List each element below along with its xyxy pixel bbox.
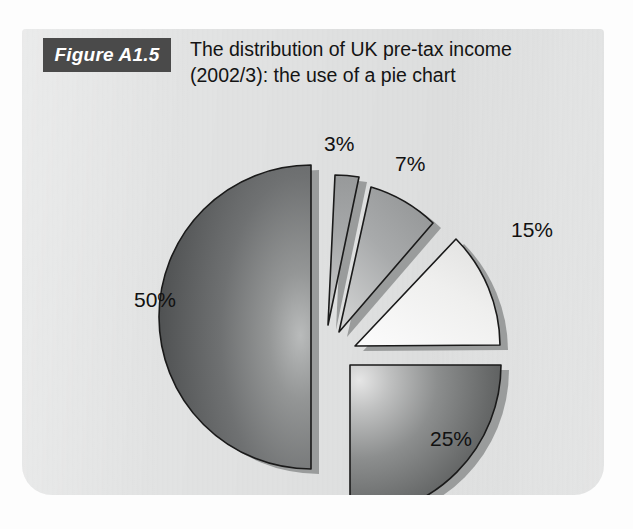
pie-label-15: 15% — [511, 218, 553, 241]
pie-chart: 50% 3% 7% 15% 25% — [22, 29, 604, 495]
figure-number-tag: Figure A1.5 — [43, 38, 171, 72]
pie-label-50: 50% — [134, 288, 176, 311]
pie-slice-50[interactable] — [159, 165, 311, 469]
pie-label-7: 7% — [395, 152, 425, 175]
figure-title-line-2: (2002/3): the use of a pie chart — [190, 62, 590, 88]
pie-label-3: 3% — [324, 132, 354, 155]
figure-title: The distribution of UK pre-tax income (2… — [190, 36, 590, 88]
pie-label-25: 25% — [430, 427, 472, 450]
page-root: Figure A1.5 The distribution of UK pre-t… — [0, 0, 633, 529]
figure-title-line-1: The distribution of UK pre-tax income — [190, 36, 590, 62]
pie-slice-25[interactable] — [350, 365, 501, 495]
